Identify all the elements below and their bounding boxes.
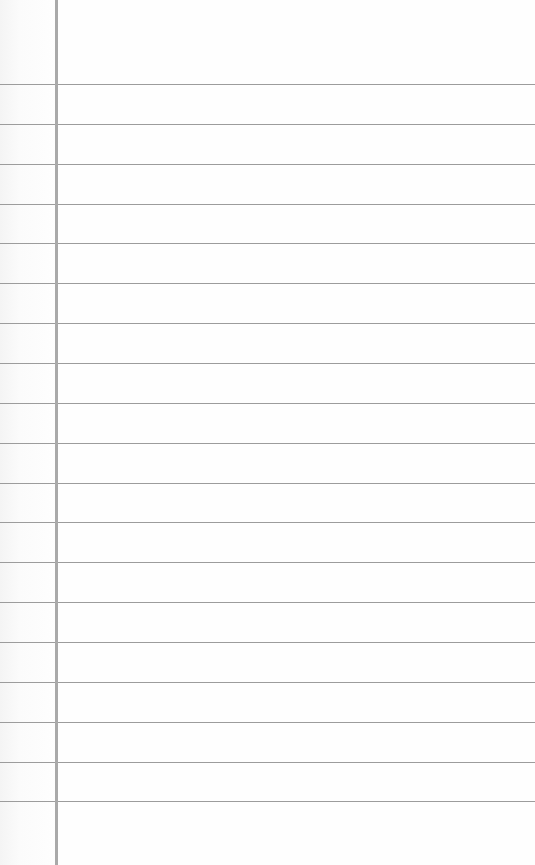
ruled-line: [0, 443, 535, 444]
ruled-line: [0, 801, 535, 802]
ruled-line: [0, 562, 535, 563]
ruled-line: [0, 722, 535, 723]
ruled-line: [0, 204, 535, 205]
ruled-line: [0, 164, 535, 165]
ruled-line: [0, 243, 535, 244]
ruled-line: [0, 84, 535, 85]
ruled-line: [0, 642, 535, 643]
ruled-line: [0, 363, 535, 364]
ruled-line: [0, 522, 535, 523]
ruled-line: [0, 483, 535, 484]
ruled-line: [0, 762, 535, 763]
margin-line: [55, 0, 58, 865]
notepaper-sheet: [0, 0, 535, 865]
ruled-line: [0, 283, 535, 284]
ruled-line: [0, 682, 535, 683]
ruled-line: [0, 323, 535, 324]
ruled-line: [0, 403, 535, 404]
ruled-line: [0, 124, 535, 125]
ruled-line: [0, 602, 535, 603]
